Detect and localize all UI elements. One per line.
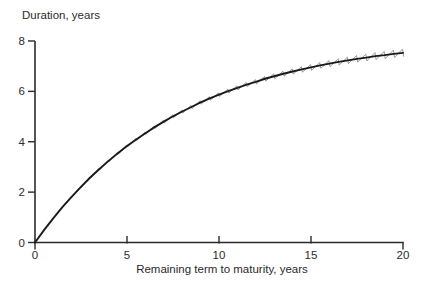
duration-vs-maturity-chart: 0246805101520 Duration, years Remaining …	[0, 0, 423, 292]
x-tick-label: 0	[32, 249, 38, 261]
sawtooth-duration-series	[72, 49, 404, 197]
y-tick-label: 6	[19, 85, 25, 97]
y-tick-label: 4	[19, 136, 26, 148]
y-tick-label: 0	[19, 237, 25, 249]
axis-ticks	[28, 41, 403, 250]
x-tick-label: 5	[124, 249, 130, 261]
x-axis-title: Remaining term to maturity, years	[136, 263, 308, 275]
y-tick-label: 2	[19, 186, 25, 198]
x-tick-label: 15	[305, 249, 318, 261]
x-tick-label: 10	[213, 249, 226, 261]
chart-canvas: 0246805101520 Duration, years Remaining …	[0, 0, 423, 292]
y-tick-label: 8	[19, 35, 25, 47]
axis-tick-labels: 0246805101520	[19, 35, 410, 261]
y-axis-title: Duration, years	[22, 9, 100, 21]
x-tick-label: 20	[397, 249, 410, 261]
smooth-duration-series	[35, 53, 403, 243]
axes: 0246805101520	[19, 35, 410, 261]
